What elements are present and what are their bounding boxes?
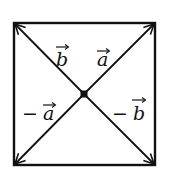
svg-text:a: a xyxy=(97,48,108,70)
label-b: b xyxy=(56,45,69,71)
label-a: a xyxy=(97,48,110,70)
vector-a-arrow xyxy=(84,24,154,94)
svg-text:b: b xyxy=(56,48,68,70)
label-neg-b: − b xyxy=(112,98,146,125)
svg-text:b: b xyxy=(133,102,145,124)
svg-text:−: − xyxy=(22,102,38,124)
label-neg-a: − a xyxy=(22,102,56,124)
svg-text:−: − xyxy=(112,102,128,124)
vector-diagram: b a − a − b xyxy=(0,0,170,182)
svg-text:a: a xyxy=(43,102,54,124)
vector-b-arrow xyxy=(15,24,84,94)
center-point xyxy=(81,91,88,98)
